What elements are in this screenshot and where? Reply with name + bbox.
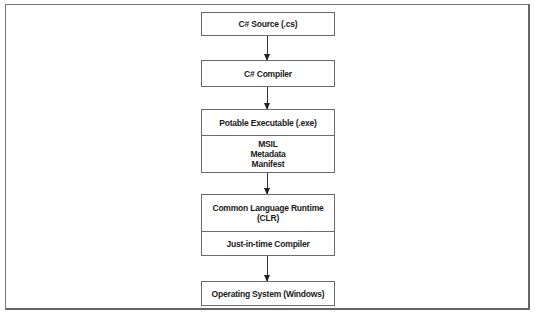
content-manifest: Manifest bbox=[252, 159, 285, 169]
node-header-label: Potable Executable (.exe) bbox=[202, 110, 334, 135]
arrow-pe-to-clr bbox=[267, 173, 268, 194]
node-contents: MSIL Metadata Manifest bbox=[202, 135, 334, 172]
node-operating-system: Operating System (Windows) bbox=[201, 281, 335, 306]
node-header-label: Common Language Runtime (CLR) bbox=[202, 195, 334, 231]
arrow-clr-to-os bbox=[267, 256, 268, 281]
node-clr: Common Language Runtime (CLR) Just-in-ti… bbox=[201, 194, 335, 256]
content-metadata: Metadata bbox=[250, 149, 285, 159]
arrow-source-to-compiler bbox=[267, 36, 268, 60]
node-label: C# Source (.cs) bbox=[202, 13, 334, 35]
node-label: C# Compiler bbox=[202, 61, 334, 86]
node-csharp-source: C# Source (.cs) bbox=[201, 12, 335, 36]
content-msil: MSIL bbox=[258, 139, 278, 149]
node-csharp-compiler: C# Compiler bbox=[201, 60, 335, 87]
arrow-compiler-to-pe bbox=[267, 87, 268, 109]
node-label: Operating System (Windows) bbox=[202, 282, 334, 305]
node-jit-label: Just-in-time Compiler bbox=[202, 231, 334, 255]
node-portable-executable: Potable Executable (.exe) MSIL Metadata … bbox=[201, 109, 335, 173]
